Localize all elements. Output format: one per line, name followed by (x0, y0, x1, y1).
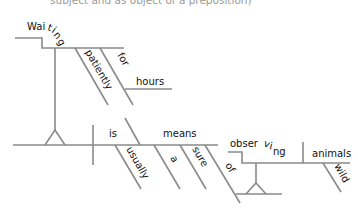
predicate-nominative-slant (125, 118, 140, 145)
pedestal-fork (45, 130, 65, 145)
word-hours: hours (136, 76, 164, 87)
word-is: is (109, 128, 117, 139)
word-means: means (163, 128, 197, 139)
observing-part-4: ng (273, 146, 286, 157)
word-for: for (115, 51, 132, 69)
word-waiting: Wai t i n g (27, 21, 68, 48)
waiting-part-1: Wai (27, 21, 45, 32)
word-observing: obser v i ng (230, 138, 286, 157)
word-animals: animals (312, 148, 351, 159)
word-usually: usually (124, 145, 151, 181)
observing-part-1: obser (230, 138, 259, 149)
sentence-diagram: subject and as object of a preposition) … (0, 0, 358, 216)
modifier-line-a (154, 145, 180, 189)
gerund-step-line (15, 38, 124, 48)
caption-text: subject and as object of a preposition) (50, 0, 252, 6)
word-a: a (168, 154, 181, 165)
preposition-line-of (205, 145, 240, 203)
word-of: of (223, 161, 238, 175)
word-wild: wild (332, 162, 352, 185)
object-pedestal-fork (246, 183, 266, 194)
gerund-subject-pedestal (15, 38, 124, 145)
